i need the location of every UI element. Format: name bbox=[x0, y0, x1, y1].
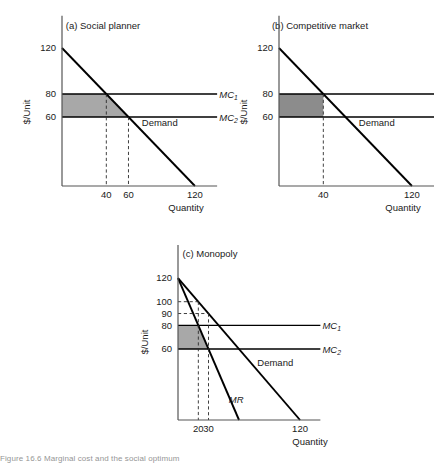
chart-panel-social-planner: (a) Social planner 6080120 4060120 $/Uni… bbox=[0, 0, 217, 232]
panel-b-y-tick-120: 120 bbox=[257, 42, 273, 53]
panel-b-title: (b) Competitive market bbox=[272, 20, 368, 31]
panel-b-x-tick-120: 120 bbox=[404, 189, 420, 200]
panel-c-y-tick-90: 90 bbox=[161, 308, 172, 319]
panel-c-x-tick-30: 30 bbox=[203, 423, 214, 434]
panel-b-x-tick-labels: 40120 bbox=[318, 189, 420, 200]
panel-c-y-tick-80: 80 bbox=[161, 320, 172, 331]
panel-a-plot-area bbox=[62, 16, 217, 186]
panel-a-y-tick-labels: 6080120 bbox=[40, 42, 56, 122]
panel-a-x-tick-120: 120 bbox=[187, 189, 203, 200]
panel-a-x-tick-40: 40 bbox=[101, 189, 112, 200]
chart-panel-monopoly: (c) Monopoly 608090100120 2030120 $/Unit… bbox=[110, 232, 327, 457]
panel-b-x-tick-40: 40 bbox=[318, 189, 329, 200]
figure-caption: Figure 16.6 Marginal cost and the social… bbox=[0, 452, 434, 465]
panel-b-plot-area bbox=[279, 16, 434, 186]
panel-a-x-tick-labels: 4060120 bbox=[101, 189, 203, 200]
panel-b-y-tick-80: 80 bbox=[262, 88, 273, 99]
panel-c-mr-label: MR bbox=[229, 394, 244, 405]
panel-a-y-axis-title: $/Unit bbox=[21, 99, 32, 124]
panel-b-y-tick-labels: 6080120 bbox=[257, 42, 273, 122]
panel-b-x-axis-title: Quantity bbox=[385, 202, 421, 213]
panel-c-x-tick-120: 120 bbox=[292, 423, 308, 434]
panel-c-y-axis-title: $/Unit bbox=[139, 329, 150, 354]
panel-a-title: (a) Social planner bbox=[66, 20, 140, 31]
panel-a-x-axis-title: Quantity bbox=[168, 202, 204, 213]
panel-c-mc2-label: MC2 bbox=[322, 344, 341, 356]
panel-a-y-tick-120: 120 bbox=[40, 42, 56, 53]
panel-c-y-tick-60: 60 bbox=[161, 343, 172, 354]
panel-c-plot-area bbox=[178, 245, 320, 420]
panel-c-demand-label: Demand bbox=[257, 357, 293, 368]
panel-a-y-tick-60: 60 bbox=[45, 111, 56, 122]
panel-b-shaded-region bbox=[279, 94, 323, 117]
panel-c-x-tick-20: 20 bbox=[193, 423, 204, 434]
panel-c-mc1-label: MC1 bbox=[322, 320, 341, 332]
panel-a-y-tick-80: 80 bbox=[45, 88, 56, 99]
panel-c-y-tick-100: 100 bbox=[156, 296, 172, 307]
panel-c-title: (c) Monopoly bbox=[183, 248, 238, 259]
chart-panel-competitive-market: (b) Competitive market 6080120 40120 $/U… bbox=[217, 0, 434, 232]
panel-c-x-axis-title: Quantity bbox=[292, 436, 328, 447]
panel-c-x-tick-labels: 2030120 bbox=[193, 423, 308, 434]
panel-c-y-tick-labels: 608090100120 bbox=[156, 272, 172, 354]
panel-c-y-tick-120: 120 bbox=[156, 272, 172, 283]
panel-a-x-tick-60: 60 bbox=[123, 189, 134, 200]
panel-b-demand-label: Demand bbox=[359, 117, 395, 128]
economics-figure: (a) Social planner 6080120 4060120 $/Uni… bbox=[0, 0, 434, 465]
panel-a-demand-label: Demand bbox=[142, 117, 178, 128]
panel-b-y-axis-title: $/Unit bbox=[238, 99, 249, 124]
panel-b-y-tick-60: 60 bbox=[262, 111, 273, 122]
figure-caption-strip: Figure 16.6 Marginal cost and the social… bbox=[0, 452, 434, 465]
